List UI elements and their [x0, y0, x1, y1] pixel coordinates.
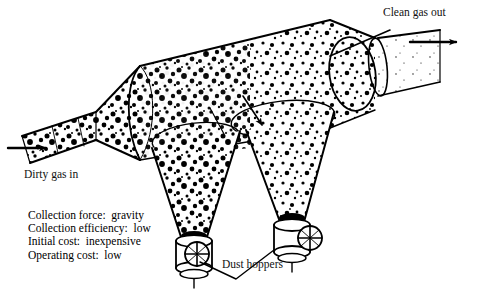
outlet-label: Clean gas out	[383, 6, 446, 19]
hopper-right	[246, 112, 334, 223]
spec-line-operating-cost: Operating cost: low	[28, 249, 151, 262]
inlet-label: Dirty gas in	[24, 168, 78, 181]
specifications-block: Collection force: gravity Collection eff…	[28, 209, 151, 262]
spec-line-collection-efficiency: Collection efficiency: low	[28, 222, 151, 235]
spec-line-collection-force: Collection force: gravity	[28, 209, 151, 222]
inlet-duct	[22, 112, 96, 163]
rotary-valve-left	[176, 235, 212, 288]
spec-line-initial-cost: Initial cost: inexpensive	[28, 235, 151, 248]
hopper-left	[152, 131, 240, 240]
dust-hoppers-label: Dust hoppers	[222, 258, 283, 271]
diagram-canvas: Dirty gas in Clean gas out Dust hoppers …	[0, 0, 480, 295]
